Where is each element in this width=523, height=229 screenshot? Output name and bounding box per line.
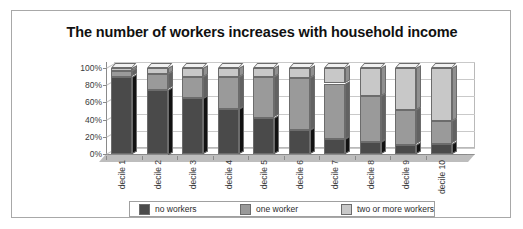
bar-segment-face: [147, 68, 168, 74]
legend-item[interactable]: one worker: [231, 204, 332, 215]
bar-segment-face: [360, 142, 381, 154]
bar-segment-face: [218, 68, 239, 77]
x-axis-tick-mark: [390, 156, 391, 160]
bar-segment-face: [147, 90, 168, 155]
bar-segment-side: [381, 93, 386, 142]
x-axis-label: decile 7: [330, 160, 340, 189]
bar-segment[interactable]: [431, 144, 452, 154]
bar-segment[interactable]: [147, 74, 168, 89]
bar-segment[interactable]: [218, 68, 239, 77]
x-axis-tick-mark: [213, 156, 214, 160]
bar-segment[interactable]: [218, 77, 239, 109]
legend-swatch: [240, 204, 251, 215]
bar-segment[interactable]: [395, 110, 416, 144]
bar-segment-side: [168, 87, 173, 154]
bar-segment-side: [274, 115, 279, 154]
bar-segment-face: [218, 109, 239, 154]
bar-segment[interactable]: [360, 96, 381, 142]
x-axis-tick-mark: [106, 156, 107, 160]
bar-segment-side: [381, 65, 386, 95]
legend-swatch: [139, 204, 150, 215]
x-axis-tick-mark: [177, 156, 178, 160]
bar-segment-face: [111, 77, 132, 154]
bar-segment-side: [416, 107, 421, 144]
bar-segment[interactable]: [253, 118, 274, 154]
bar-segment[interactable]: [253, 77, 274, 117]
x-axis-label: decile 9: [401, 160, 411, 189]
bar-segment-face: [395, 145, 416, 154]
bar-segment[interactable]: [395, 145, 416, 154]
bar-segment[interactable]: [395, 68, 416, 110]
bar-segment[interactable]: [218, 109, 239, 154]
bar-segment-side: [132, 74, 137, 154]
chart-figure: The number of workers increases with hou…: [0, 0, 523, 229]
x-axis-tick-mark: [426, 156, 427, 160]
bar-segment-face: [431, 144, 452, 154]
chart-title: The number of workers increases with hou…: [12, 24, 512, 40]
bar-segment-side: [452, 119, 457, 144]
legend-label: two or more workers: [357, 204, 434, 214]
y-axis-tick-mark: [103, 68, 107, 69]
bar-segment-face: [289, 78, 310, 130]
x-axis-label: decile 5: [259, 160, 269, 189]
bar-segment[interactable]: [111, 68, 132, 71]
bar-segment[interactable]: [324, 68, 345, 83]
bar-segment[interactable]: [360, 68, 381, 96]
bar-segment[interactable]: [147, 90, 168, 155]
legend-item[interactable]: no workers: [130, 204, 231, 215]
bar-segment-face: [182, 98, 203, 154]
legend-item[interactable]: two or more workers: [332, 204, 434, 215]
bar-top-cap: [111, 63, 136, 68]
bar-top-cap: [324, 63, 349, 68]
bar-segment-side: [203, 74, 208, 98]
bar-segment[interactable]: [182, 98, 203, 154]
x-axis-label: decile 4: [224, 160, 234, 189]
x-axis-label: decile 2: [153, 160, 163, 189]
bar-segment-face: [111, 68, 132, 71]
bar-segment-face: [431, 121, 452, 143]
bar-segment-face: [253, 68, 274, 77]
bar-segment-face: [182, 68, 203, 77]
bar-segment-face: [360, 68, 381, 96]
bar-top-cap: [182, 63, 207, 68]
bar-segment[interactable]: [289, 68, 310, 78]
bar-segment-face: [253, 118, 274, 154]
bar-segment-side: [345, 81, 350, 139]
bar-segment-face: [360, 96, 381, 142]
bar-segment[interactable]: [431, 121, 452, 143]
bar-segment[interactable]: [324, 139, 345, 154]
y-axis-tick-mark: [103, 102, 107, 103]
x-axis-label: decile 6: [295, 160, 305, 189]
bar-segment[interactable]: [324, 84, 345, 139]
bar-segment-face: [289, 130, 310, 154]
x-axis-tick-mark: [284, 156, 285, 160]
y-axis-tick-mark: [103, 85, 107, 86]
bar-segment[interactable]: [253, 68, 274, 77]
bar-segment[interactable]: [111, 77, 132, 154]
bar-segment[interactable]: [360, 142, 381, 154]
bar-segment-side: [168, 71, 173, 89]
legend-swatch: [341, 204, 352, 215]
chart-legend: no workersone workertwo or more workers: [129, 201, 435, 217]
plot-area: 0%20%40%60%80%100% decile 1decile 2decil…: [106, 68, 467, 154]
x-axis-label: decile 1: [117, 160, 127, 189]
bar-segment-side: [310, 127, 315, 154]
y-axis-tick-label: 20%: [85, 132, 102, 142]
bar-segment[interactable]: [289, 78, 310, 130]
bar-segment-face: [431, 68, 452, 121]
bar-segment[interactable]: [111, 71, 132, 76]
x-axis-label: decile 10: [437, 160, 447, 194]
bar-segment[interactable]: [182, 68, 203, 77]
bar-segment-side: [452, 65, 457, 121]
bar-segment[interactable]: [147, 68, 168, 74]
bar-top-cap: [360, 63, 385, 68]
bar-segment-side: [274, 75, 279, 118]
bar-segment[interactable]: [289, 130, 310, 154]
legend-label: one worker: [256, 204, 298, 214]
y-axis-tick-mark: [103, 154, 107, 155]
bar-top-cap: [431, 63, 456, 68]
bar-segment[interactable]: [182, 77, 203, 99]
x-axis-label: decile 3: [188, 160, 198, 189]
bar-segment[interactable]: [431, 68, 452, 121]
bar-segment-face: [395, 68, 416, 110]
